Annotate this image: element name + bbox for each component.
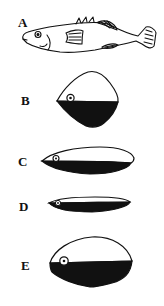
cross-section-c [42, 147, 134, 174]
figure-canvas [0, 0, 164, 306]
fish-illustration-a [23, 17, 156, 52]
cross-section-e [50, 237, 132, 287]
cross-section-d [49, 197, 130, 212]
cross-section-b [57, 72, 118, 127]
